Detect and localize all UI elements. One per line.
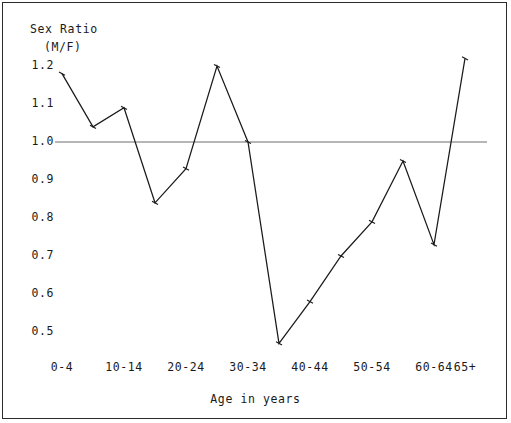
chart-plot-area <box>0 0 511 423</box>
x-axis-title: Age in years <box>0 392 511 406</box>
data-point-marker <box>307 300 313 303</box>
data-point-markers <box>59 57 468 345</box>
chart-page: Sex Ratio (M/F) 1.21.11.00.90.80.70.60.5… <box>0 0 511 423</box>
data-point-marker <box>338 254 344 257</box>
sex-ratio-series-line <box>62 58 465 343</box>
